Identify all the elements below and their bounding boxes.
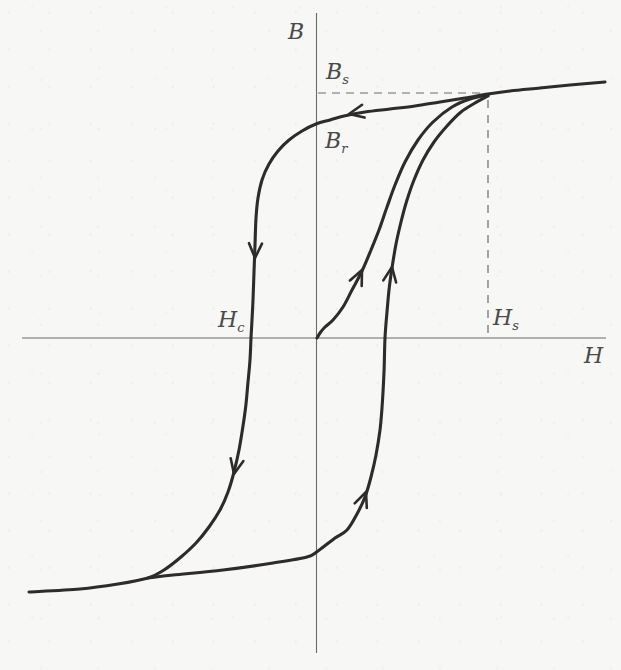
- hs-label-sub: s: [512, 318, 519, 333]
- bs-label-main: B: [325, 59, 342, 84]
- br-label-sub: r: [341, 141, 348, 156]
- axes-layer: [22, 13, 606, 653]
- h-axis-label: H: [583, 343, 604, 368]
- hysteresis-figure: B Bs Br Hc Hs H: [0, 0, 621, 670]
- hysteresis-figure-page: B Bs Br Hc Hs H: [0, 0, 621, 670]
- b-axis-label: B: [287, 19, 304, 44]
- br-label-main: B: [324, 128, 341, 153]
- hs-label: Hs: [492, 305, 519, 333]
- bs-label: Bs: [325, 59, 349, 87]
- hc-label-main: H: [217, 307, 238, 332]
- br-label: Br: [324, 128, 348, 156]
- hc-label-sub: c: [237, 320, 245, 335]
- arrows-layer: [231, 105, 396, 508]
- hc-label: Hc: [217, 307, 245, 335]
- bs-label-sub: s: [342, 72, 349, 87]
- hs-label-main: H: [492, 305, 513, 330]
